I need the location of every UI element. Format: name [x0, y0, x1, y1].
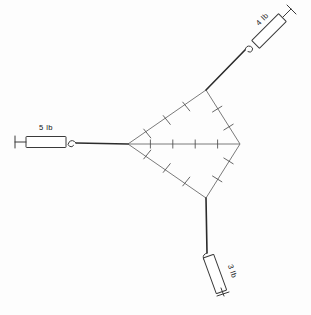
force-triangle-construction: [128, 90, 240, 198]
upper-right-scale-assembly[interactable]: 4 lb: [206, 5, 296, 90]
lower-right-cord: [206, 198, 207, 253]
lower-right-side-ticks: [212, 158, 233, 182]
upper-right-side-ticks: [212, 106, 233, 130]
upper-right-cord: [206, 50, 245, 90]
left-scale-label: 5 lb: [39, 123, 53, 132]
upper-right-anchor-bar: [287, 5, 296, 14]
left-hook-icon: [68, 141, 76, 147]
upper-right-hook-icon: [245, 46, 253, 52]
lower-right-scale-label: 3 lb: [226, 263, 239, 279]
force-diagram: 5 lb 4 lb: [0, 0, 311, 315]
left-cord: [76, 143, 128, 144]
lower-left-side-4-units: [128, 144, 206, 198]
lower-right-side-3-units: [206, 144, 240, 198]
left-scale-assembly[interactable]: 5 lb: [15, 123, 128, 148]
force-diagram-canvas: 5 lb 4 lb: [0, 0, 311, 315]
upper-left-side-ticks: [144, 102, 191, 138]
lower-left-side-ticks: [144, 150, 191, 186]
lower-right-scale-body[interactable]: [203, 254, 226, 293]
upper-left-side-4-units: [128, 90, 206, 144]
lower-right-scale-assembly[interactable]: 3 lb: [203, 198, 239, 296]
upper-right-side-3-units: [206, 90, 240, 144]
left-scale-body[interactable]: [26, 137, 66, 148]
upper-right-anchor-stem: [283, 9, 291, 17]
